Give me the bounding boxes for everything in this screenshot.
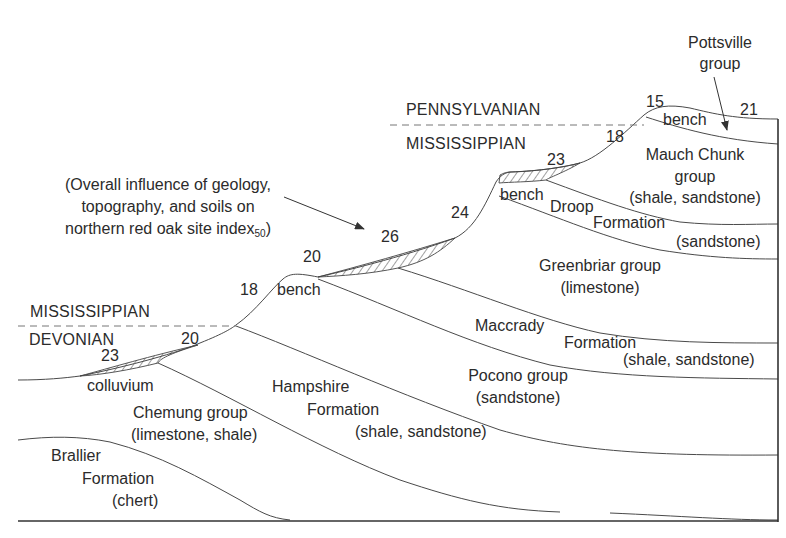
site-index-upper-hatch: 23 [547, 151, 565, 169]
formation-label-maccrady-line1: Maccrady [475, 316, 544, 335]
diagram-caption: (Overall influence of geology, topograph… [48, 175, 288, 243]
site-index-lower-bench: 20 [303, 248, 321, 266]
site-index-top-bench: 15 [646, 93, 664, 111]
caption-line-2: topography, and soils on [48, 197, 288, 216]
era-label-pennsylvanian: PENNSYLVANIAN [406, 101, 541, 119]
era-label-mississippian-lower: MISSISSIPPIAN [30, 303, 150, 321]
formation-label-hampshire-line1: Hampshire [272, 377, 349, 396]
formation-label-pottsville: Pottsville group [680, 33, 760, 73]
colluvium-hatch-upper [499, 163, 580, 183]
formation-label-droop-line1: Droop [550, 197, 594, 216]
formation-label-brallier-line3: (chert) [112, 491, 158, 510]
site-index-middle-steep: 24 [451, 204, 469, 222]
caption-line-1: (Overall influence of geology, [48, 175, 288, 194]
pottsville-arrow [714, 77, 727, 130]
site-index-top-right: 21 [740, 101, 758, 119]
site-index-colluvium-lower: 23 [101, 347, 119, 365]
landform-label-bench-top: bench [663, 110, 707, 129]
site-index-middle-hatch: 26 [381, 228, 399, 246]
site-index-lower-slope: 20 [181, 330, 199, 348]
era-label-mississippian-upper: MISSISSIPPIAN [406, 135, 526, 153]
site-index-upper-steep: 18 [606, 128, 624, 146]
formation-label-hampshire-line2: Formation [307, 400, 379, 419]
colluvium-hatch-lower [80, 345, 198, 376]
landform-label-bench-middle: bench [500, 185, 544, 204]
caption-arrow [284, 197, 364, 229]
formation-label-brallier-line1: Brallier [51, 446, 101, 465]
caption-line-3: northern red oak site index50) [48, 219, 288, 243]
formation-label-hampshire-line3: (shale, sandstone) [355, 422, 487, 441]
formation-label-brallier-line2: Formation [82, 469, 154, 488]
formation-label-droop-line3: (sandstone) [676, 232, 761, 251]
formation-label-greenbriar: Greenbriar group (limestone) [525, 256, 675, 297]
formation-label-chemung: Chemung group (limestone, shale) [131, 403, 257, 444]
formation-label-mauch-chunk: Mauch Chunk group (shale, sandstone) [615, 145, 775, 207]
formation-label-droop-line2: Formation [593, 213, 665, 232]
formation-label-maccrady-line3: (shale, sandstone) [623, 350, 755, 369]
landform-label-colluvium: colluvium [87, 376, 154, 395]
site-index-lower-steep: 18 [240, 281, 258, 299]
landform-label-bench-lower: bench [277, 280, 321, 299]
formation-label-pocono: Pocono group (sandstone) [458, 366, 578, 407]
